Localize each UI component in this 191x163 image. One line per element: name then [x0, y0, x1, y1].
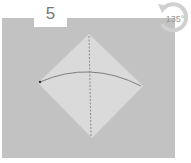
- paper-diamond: [38, 34, 143, 138]
- origami-diagram: [0, 0, 191, 163]
- fold-start-dot: [39, 81, 41, 83]
